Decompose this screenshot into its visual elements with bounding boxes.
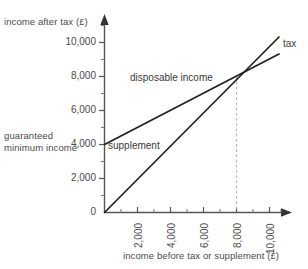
- y-tick-label-0: 0: [90, 206, 96, 217]
- x-axis-major-ticks: [138, 207, 270, 213]
- y-axis-arrow-icon: [100, 14, 108, 25]
- y-tick-label-2000: 2,000: [71, 172, 96, 183]
- y-tick-label-10000: 10,000: [65, 36, 96, 47]
- supplement-tax-line: [105, 54, 280, 145]
- disposable-income-label: disposable income: [130, 72, 213, 83]
- x-tick-label-8000: 8,000: [232, 223, 243, 248]
- x-axis-title: income before tax or supplement (£): [123, 250, 279, 262]
- x-tick-label-4000: 4,000: [166, 223, 177, 248]
- y-axis-title: income after tax (£): [4, 16, 96, 28]
- y-tick-label-8000: 8,000: [71, 70, 96, 81]
- tax-label: tax: [283, 38, 296, 49]
- y-tick-label-6000: 6,000: [71, 104, 96, 115]
- x-axis-arrow-icon: [281, 208, 292, 216]
- x-tick-label-2000: 2,000: [133, 223, 144, 248]
- x-tick-label-6000: 6,000: [199, 223, 210, 248]
- supplement-label: supplement: [108, 140, 160, 151]
- y-tick-label-4000: 4,000: [71, 138, 96, 149]
- disposable-income-line: [105, 37, 280, 213]
- chart-figure: income after tax (£) guaranteed minimum …: [0, 0, 308, 269]
- y-axis-major-ticks: [99, 43, 105, 179]
- guaranteed-minimum-income-label: guaranteed minimum income: [4, 130, 80, 153]
